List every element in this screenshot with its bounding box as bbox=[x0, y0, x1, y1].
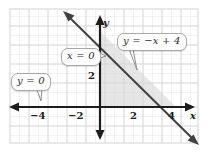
x-tick-label-minus2: −2 bbox=[68, 110, 83, 121]
graph-figure: y = −x + 4 x = 0 y = 0 −4 −2 2 4 2 x y bbox=[0, 0, 208, 152]
y-zero-callout: y = 0 bbox=[11, 73, 51, 91]
y-axis-label: y bbox=[103, 17, 109, 28]
x-axis-label: x bbox=[190, 110, 196, 121]
line-equation-callout: y = −x + 4 bbox=[117, 33, 187, 51]
x-zero-callout: x = 0 bbox=[61, 48, 101, 66]
x-tick-label-minus4: −4 bbox=[30, 110, 45, 121]
x-tick-label-4: 4 bbox=[168, 110, 175, 121]
y-tick-label-2: 2 bbox=[88, 70, 95, 81]
x-tick-label-2: 2 bbox=[130, 110, 137, 121]
